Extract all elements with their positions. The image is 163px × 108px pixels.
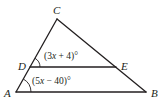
angle-arc-dab [23, 79, 31, 92]
vertex-label-d: D [17, 60, 26, 72]
triangle-diagram: C D E A B (3x + 4)° (5x − 40)° [0, 0, 163, 108]
vertex-label-b: B [151, 87, 158, 99]
vertex-label-a: A [3, 87, 11, 99]
vertex-label-c: C [53, 4, 61, 16]
angle-label-dab: (5x − 40)° [32, 76, 71, 87]
angle-label-cde: (3x + 4)° [44, 51, 78, 62]
angle-arc-cde [35, 58, 40, 67]
vertex-label-e: E [120, 60, 128, 72]
